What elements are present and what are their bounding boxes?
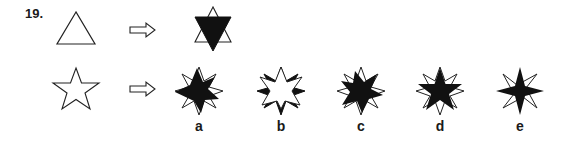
option-b-figure[interactable] — [256, 66, 306, 116]
question-number: 19. — [25, 6, 43, 21]
option-d-figure[interactable] — [415, 66, 465, 116]
double-arrow-right-icon — [129, 22, 157, 38]
option-b-label[interactable]: b — [271, 118, 291, 134]
option-c-label[interactable]: c — [351, 118, 371, 134]
double-arrow-right-icon — [129, 81, 157, 97]
star-of-david-result-icon — [192, 5, 234, 53]
option-c-figure[interactable] — [336, 66, 386, 116]
five-point-star-icon — [52, 66, 102, 112]
option-e-label[interactable]: e — [510, 118, 530, 134]
option-a-label[interactable]: a — [189, 118, 209, 134]
option-a-figure[interactable] — [174, 66, 224, 116]
option-e-figure[interactable] — [495, 66, 545, 116]
triangle-icon — [55, 10, 99, 46]
option-d-label[interactable]: d — [430, 118, 450, 134]
